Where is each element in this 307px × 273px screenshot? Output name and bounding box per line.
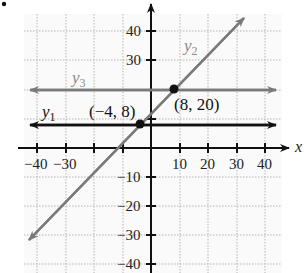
x-tick-label: −30 xyxy=(53,156,76,172)
y-tick-label: −40 xyxy=(117,256,140,272)
y-tick-label: −20 xyxy=(117,198,140,214)
point-label-8-20: (8, 20) xyxy=(174,95,219,114)
x-tick-label: 10 xyxy=(172,156,187,172)
x-tick-label: −40 xyxy=(24,156,47,172)
x-tick-label: 30 xyxy=(229,156,244,172)
y-tick-label: −10 xyxy=(117,169,140,185)
x-tick-label: 20 xyxy=(200,156,215,172)
bullet-marker xyxy=(2,2,6,6)
x-tick-label: 40 xyxy=(257,156,272,172)
chart-figure: −40 −30 10 20 30 40 40 30 −10 −20 −30 −4… xyxy=(0,0,307,273)
point-8-20 xyxy=(170,85,179,94)
chart-svg: −40 −30 10 20 30 40 40 30 −10 −20 −30 −4… xyxy=(0,0,307,273)
y-tick-label: 30 xyxy=(126,52,141,68)
point-label-minus4-8: (−4, 8) xyxy=(89,102,135,121)
y-tick-label: −30 xyxy=(117,227,140,243)
y-tick-label: 40 xyxy=(126,23,141,39)
point-minus4-8 xyxy=(136,120,145,129)
x-axis-label: x xyxy=(294,138,302,155)
